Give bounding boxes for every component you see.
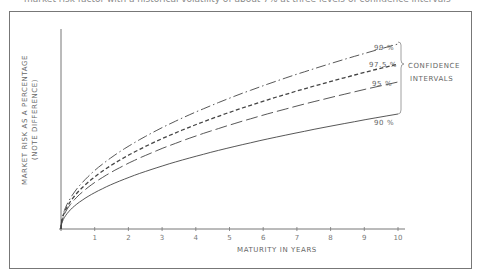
series-label-90: 90 %: [374, 119, 394, 127]
axes: [59, 29, 405, 231]
x-tick-label: 8: [328, 234, 332, 242]
x-tick-label: 4: [194, 234, 199, 242]
x-tick-label: 10: [394, 234, 403, 242]
y-axis-note: (NOTE DIFFERENCE): [31, 79, 39, 160]
curve-99: [61, 44, 398, 229]
chart-canvas: 12345678910 99 % 97.5 % 95 % 90 % CONFID…: [0, 0, 478, 277]
x-tick-label: 3: [160, 234, 164, 242]
x-tick-label: 7: [295, 234, 299, 242]
curves: [61, 44, 398, 229]
y-axis-label: MARKET RISK AS A PERCENTAGE: [21, 55, 29, 185]
series-label-95: 95 %: [372, 80, 392, 88]
x-tick-label: 5: [227, 234, 231, 242]
x-tick-label: 6: [261, 234, 266, 242]
x-axis-label: MATURITY IN YEARS: [237, 246, 317, 254]
bracket-label-line1: CONFIDENCE: [408, 62, 460, 70]
curve-975: [61, 64, 398, 229]
bracket-label-line2: INTERVALS: [410, 75, 453, 83]
confidence-bracket-icon: [398, 42, 404, 114]
series-label-99: 99 %: [374, 44, 394, 52]
series-label-975: 97.5 %: [369, 61, 397, 69]
curve-95: [61, 82, 398, 229]
x-tick-label: 1: [92, 234, 96, 242]
x-tick-label: 9: [362, 234, 366, 242]
curve-90: [61, 114, 398, 229]
x-tick-label: 2: [126, 234, 130, 242]
